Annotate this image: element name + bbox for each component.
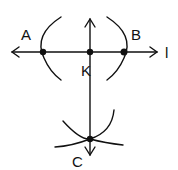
point-k (87, 49, 93, 55)
point-a (40, 49, 46, 55)
label-k: K (81, 63, 91, 78)
point-b (121, 49, 128, 56)
label-b: B (131, 27, 141, 42)
label-a: A (21, 27, 31, 42)
point-c (87, 136, 93, 142)
arc-b (107, 17, 127, 80)
label-line-l: l (165, 45, 168, 60)
arc-a (41, 17, 61, 80)
arc-c-right (55, 110, 114, 147)
arc-c-left (63, 121, 123, 145)
construction-diagram: A K B C l (0, 0, 178, 170)
label-c: C (72, 154, 83, 169)
